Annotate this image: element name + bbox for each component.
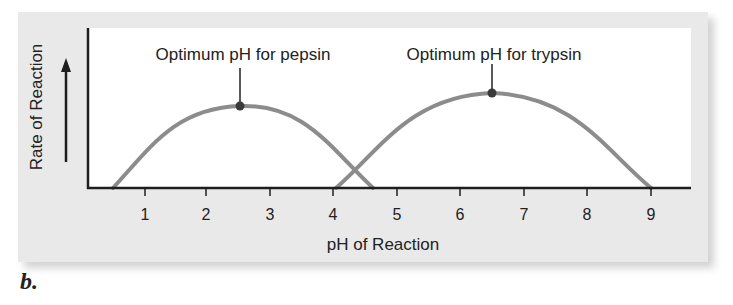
svg-text:2: 2 [202, 206, 211, 223]
svg-text:5: 5 [393, 206, 402, 223]
svg-text:1: 1 [141, 206, 150, 223]
x-tick-labels: 1 2 3 4 5 6 7 8 9 [141, 206, 656, 223]
svg-text:7: 7 [520, 206, 529, 223]
x-axis-label: pH of Reaction [327, 235, 439, 254]
y-axis-label: Rate of Reaction [27, 44, 46, 171]
svg-text:8: 8 [583, 206, 592, 223]
svg-text:6: 6 [456, 206, 465, 223]
figure-label: b. [20, 268, 38, 295]
svg-text:4: 4 [329, 206, 338, 223]
enzyme-ph-chart: Optimum pH for pepsin Optimum pH for try… [0, 0, 733, 305]
arrow-up-icon [61, 58, 71, 162]
pepsin-annotation: Optimum pH for pepsin [156, 45, 331, 64]
svg-text:9: 9 [647, 206, 656, 223]
trypsin-annotation: Optimum pH for trypsin [407, 45, 582, 64]
svg-text:3: 3 [266, 206, 275, 223]
pepsin-optimum-dot [236, 102, 245, 111]
trypsin-optimum-dot [488, 89, 497, 98]
